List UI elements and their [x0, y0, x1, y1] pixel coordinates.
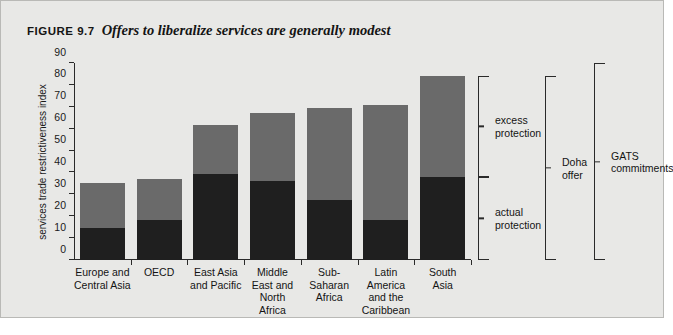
y-tick: [69, 259, 74, 260]
bar-segment-excess-protection[interactable]: [137, 179, 182, 219]
x-axis-category-label: MiddleEast andNorthAfrica: [244, 266, 301, 316]
x-tick: [414, 260, 415, 265]
annotation-bracket: [478, 76, 489, 177]
x-tick: [187, 260, 188, 265]
figure-caption: FIGURE 9.7Offers to liberalize services …: [27, 21, 391, 39]
annotation-bracket: [545, 76, 556, 260]
figure-number: FIGURE 9.7: [27, 25, 95, 37]
plot-area: 0102030405060708090: [74, 63, 471, 260]
bar-segment-actual-protection[interactable]: [80, 228, 125, 260]
x-tick: [471, 260, 472, 265]
bar-group[interactable]: [193, 125, 238, 260]
figure-panel: FIGURE 9.7Offers to liberalize services …: [0, 0, 664, 318]
annotation-bracket: [594, 63, 605, 260]
annotation-bracket-label: excessprotection: [495, 114, 541, 139]
x-axis-category-label: Europe andCentral Asia: [74, 266, 131, 291]
x-axis-category-label: OECD: [131, 266, 188, 279]
x-axis-category-label: Sub-SaharanAfrica: [301, 266, 358, 304]
bar-segment-actual-protection[interactable]: [250, 181, 295, 260]
y-tick-label: 30: [54, 177, 66, 189]
bar-group[interactable]: [363, 105, 408, 260]
y-tick: [69, 171, 74, 172]
y-tick: [69, 106, 74, 107]
annotation-bracket-label: GATScommitments: [611, 149, 673, 174]
y-tick: [69, 150, 74, 151]
y-tick: [69, 237, 74, 238]
y-axis-line: [74, 63, 75, 260]
y-tick: [69, 128, 74, 129]
bar-group[interactable]: [420, 76, 465, 260]
x-tick: [301, 260, 302, 265]
y-axis-label-text: services trade restrictiveness index: [37, 84, 48, 240]
x-axis-category-label: LatinAmericaand theCaribbean: [358, 266, 415, 316]
x-axis-category-label: East Asiaand Pacific: [187, 266, 244, 291]
annotation-bracket: [478, 177, 489, 260]
y-tick-label: 0: [60, 243, 66, 255]
y-tick-label: 80: [54, 67, 66, 79]
x-tick: [131, 260, 132, 265]
bar-segment-excess-protection[interactable]: [250, 113, 295, 181]
x-tick: [358, 260, 359, 265]
bar-segment-actual-protection[interactable]: [193, 174, 238, 260]
y-tick-label: 60: [54, 111, 66, 123]
bar-segment-actual-protection[interactable]: [420, 177, 465, 260]
bar-segment-actual-protection[interactable]: [307, 200, 352, 260]
x-axis-category-label: SouthAsia: [414, 266, 471, 291]
y-tick: [69, 84, 74, 85]
y-tick: [69, 193, 74, 194]
figure-title-text: Offers to liberalize services are genera…: [102, 22, 391, 38]
annotation-bracket-label: actualprotection: [495, 206, 541, 231]
bar-segment-excess-protection[interactable]: [193, 125, 238, 173]
bar-group[interactable]: [250, 113, 295, 260]
y-tick: [69, 215, 74, 216]
y-tick: [69, 62, 74, 63]
bar-group[interactable]: [137, 179, 182, 260]
y-tick-label: 50: [54, 133, 66, 145]
bar-segment-excess-protection[interactable]: [420, 76, 465, 177]
bar-segment-actual-protection[interactable]: [363, 220, 408, 260]
bar-group[interactable]: [307, 108, 352, 260]
y-tick-label: 90: [54, 46, 66, 58]
y-tick-label: 40: [54, 155, 66, 167]
bar-segment-excess-protection[interactable]: [363, 105, 408, 220]
bar-group[interactable]: [80, 183, 125, 260]
annotation-bracket-label: Dohaoffer: [562, 156, 587, 181]
bar-segment-excess-protection[interactable]: [307, 108, 352, 200]
y-tick-label: 10: [54, 221, 66, 233]
x-tick: [244, 260, 245, 265]
y-tick-label: 20: [54, 199, 66, 211]
bar-segment-actual-protection[interactable]: [137, 220, 182, 260]
bar-segment-excess-protection[interactable]: [80, 183, 125, 228]
y-axis-label: services trade restrictiveness index: [35, 63, 49, 260]
y-tick-label: 70: [54, 89, 66, 101]
